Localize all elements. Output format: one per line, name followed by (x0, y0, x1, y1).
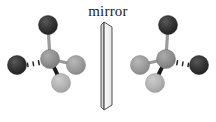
mirror-front-face (104, 22, 112, 110)
molecule-left-atom-center (41, 50, 60, 69)
molecule-right-atom-center (157, 50, 176, 69)
molecule-right-atom-left-medium (131, 56, 150, 75)
mirror-plane (101, 22, 112, 110)
figure-root: mirror (0, 0, 216, 122)
molecule-left-atom-right-medium (67, 56, 86, 75)
mirror-label: mirror (88, 3, 128, 19)
molecule-right-atom-right-dark (190, 56, 209, 75)
molecule-left-atom-top-dark (39, 16, 58, 35)
molecule-left-atom-bottom-light (52, 74, 71, 93)
molecule-left-atom-left-dark (8, 56, 27, 75)
molecule-right-atom-bottom-light (146, 74, 165, 93)
molecule-right-atom-top-dark (159, 16, 178, 35)
molecule-mirror-diagram: mirror (0, 0, 216, 122)
